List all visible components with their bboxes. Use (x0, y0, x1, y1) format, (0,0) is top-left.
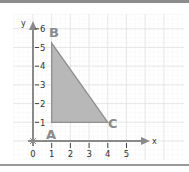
x-tick-label: 0 (30, 149, 35, 159)
vertex-label-a: A (46, 127, 56, 142)
x-tick-label: 4 (105, 149, 110, 159)
x-tick-label: 1 (49, 149, 54, 159)
y-tick-label: 4 (40, 61, 45, 71)
x-tick-label: 5 (124, 149, 129, 159)
y-tick-label: 2 (40, 99, 45, 109)
y-tick-label: 1 (40, 118, 45, 128)
x-tick-label: 3 (86, 149, 91, 159)
y-axis-label: y (21, 19, 26, 28)
grid-background (13, 14, 184, 160)
x-axis-label: x (152, 137, 157, 146)
y-tick-label: 5 (40, 43, 45, 53)
vertex-label-c: C (108, 116, 118, 131)
x-tick-label: 2 (68, 149, 73, 159)
bottom-border (0, 164, 189, 166)
y-tick-label: 6 (40, 24, 45, 34)
coordinate-plane: 0 1 2 3 4 5 1 2 3 4 5 6 x y A B C (0, 0, 189, 172)
y-tick-label: 3 (40, 80, 45, 90)
vertex-label-b: B (49, 25, 59, 40)
